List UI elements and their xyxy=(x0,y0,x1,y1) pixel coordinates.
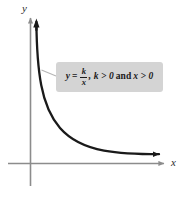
equation-equals-sign: = xyxy=(72,72,77,82)
condition-x: x > 0 xyxy=(133,72,153,82)
y-axis-label: y xyxy=(22,3,27,14)
inverse-variation-figure: y x y = k x , k > 0 and x > 0 xyxy=(0,0,184,197)
fraction-numerator: k xyxy=(81,67,87,76)
equation-callout-box: y = k x , k > 0 and x > 0 xyxy=(56,62,163,92)
x-axis-label: x xyxy=(171,157,176,168)
equation-comma: , xyxy=(88,72,90,82)
plot-canvas xyxy=(0,0,184,197)
fraction-k-over-x: k x xyxy=(80,67,87,87)
equation-conjunction: and xyxy=(116,72,131,82)
equation-expression: y = k x , k > 0 and x > 0 xyxy=(66,67,154,87)
fraction-denominator: x xyxy=(81,78,87,87)
condition-k: k > 0 xyxy=(94,72,114,82)
curve-upper-arrowhead xyxy=(33,19,39,31)
callout-leader-line xyxy=(42,70,57,76)
equation-lhs: y xyxy=(66,72,70,82)
